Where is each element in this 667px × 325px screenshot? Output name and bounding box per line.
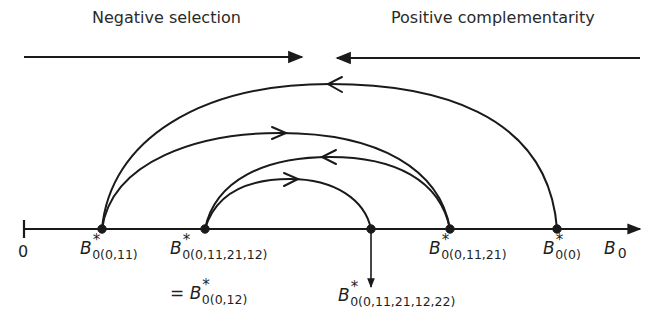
point-b0-0-11-21-12 — [201, 225, 209, 233]
positive-complementarity-label: Positive complementarity — [391, 8, 595, 27]
diagram-canvas — [0, 0, 667, 325]
point-b0-0-11-21-12-22 — [367, 225, 375, 233]
label-b0-0-11-21-12: B*0(0,11,21,12) — [170, 238, 267, 258]
label-b0-0-11-21-12-22: B*0(0,11,21,12,22) — [338, 285, 455, 305]
label-b0-0-11: B*0(0,11) — [80, 238, 138, 258]
label-b0-0-11-21: B*0(0,11,21) — [429, 238, 507, 258]
b0-axis — [24, 220, 640, 238]
negative-selection-label: Negative selection — [92, 8, 241, 27]
label-b0-0: B*0(0) — [543, 238, 581, 258]
origin-label: 0 — [18, 242, 28, 261]
arc-second — [102, 133, 450, 229]
axis-end-label: B0 — [604, 238, 627, 258]
label-equivalence-b0-0-12: = B*0(0,12) — [170, 283, 247, 303]
